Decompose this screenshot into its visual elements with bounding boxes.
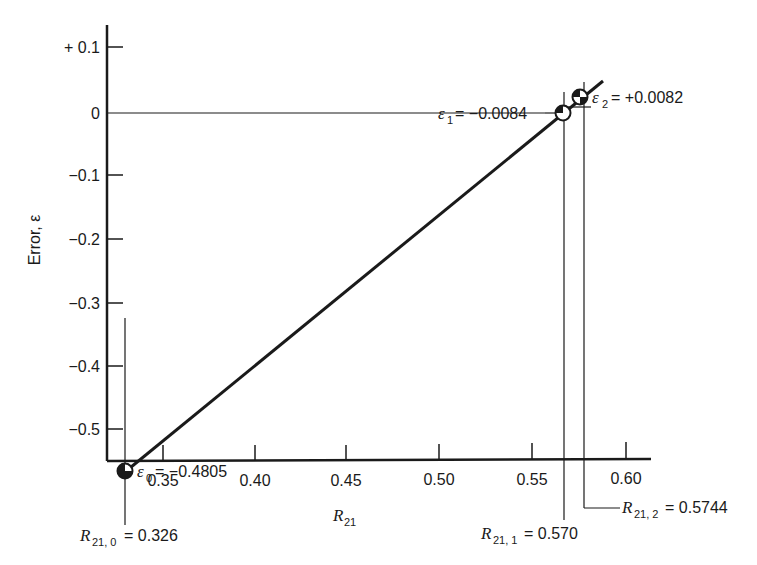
data-point-eps0	[118, 464, 133, 479]
svg-text:21, 1: 21, 1	[493, 534, 517, 546]
svg-text:= 0.5744: = 0.5744	[665, 499, 728, 516]
y-tick-labels: + 0.1 0 −0.1 −0.2 −0.3 −0.4 −0.5	[64, 39, 100, 438]
eps1-annotation: ε 1 = −0.0084	[438, 104, 527, 126]
svg-text:= +0.0082: = +0.0082	[611, 89, 683, 106]
svg-text:2: 2	[602, 98, 608, 110]
r21-0-annotation: R 21, 0 = 0.326	[79, 526, 178, 548]
svg-text:21, 2: 21, 2	[634, 508, 658, 520]
y-tick-label: −0.3	[68, 295, 100, 312]
svg-text:R: R	[480, 524, 492, 543]
x-axis-label: R 21	[332, 506, 356, 528]
eps0-annotation: ε 0 = −0.4805	[137, 462, 227, 484]
svg-text:R: R	[332, 506, 344, 525]
x-axis	[107, 459, 651, 461]
svg-text:ε: ε	[137, 462, 144, 481]
y-tick-label: −0.1	[68, 167, 100, 184]
data-point-eps2	[573, 90, 588, 105]
data-point-eps1	[556, 106, 571, 121]
svg-text:ε: ε	[592, 88, 599, 107]
svg-text:0: 0	[146, 472, 152, 484]
svg-text:= 0.570: = 0.570	[524, 525, 578, 542]
svg-text:= −0.4805: = −0.4805	[155, 463, 227, 480]
eps2-annotation: ε 2 = +0.0082	[592, 88, 683, 110]
y-axis-label: Error, ε	[26, 215, 43, 266]
x-tick-label: 0.40	[239, 472, 270, 489]
x-tick-label: 0.55	[516, 471, 547, 488]
y-tick-label: −0.4	[68, 358, 100, 375]
r21-2-annotation: R 21, 2 = 0.5744	[621, 498, 728, 520]
x-tick-label: 0.60	[610, 470, 641, 487]
svg-text:R: R	[621, 498, 633, 517]
y-tick-label: −0.5	[68, 421, 100, 438]
svg-text:ε: ε	[438, 104, 445, 123]
svg-text:1: 1	[447, 114, 453, 126]
x-tick-label: 0.45	[330, 472, 361, 489]
svg-text:= −0.0084: = −0.0084	[455, 105, 527, 122]
y-tick-label: −0.2	[68, 231, 100, 248]
r21-1-annotation: R 21, 1 = 0.570	[480, 524, 578, 546]
svg-text:= 0.326: = 0.326	[124, 527, 178, 544]
x-tick-label: 0.50	[423, 471, 454, 488]
svg-text:R: R	[79, 526, 91, 545]
y-tick-label: 0	[91, 105, 100, 122]
svg-text:21: 21	[344, 516, 356, 528]
error-line	[125, 81, 603, 472]
y-ticks	[107, 47, 123, 429]
svg-text:21, 0: 21, 0	[92, 536, 116, 548]
y-tick-label: + 0.1	[64, 39, 100, 56]
chart: + 0.1 0 −0.1 −0.2 −0.3 −0.4 −0.5 Error, …	[0, 0, 757, 565]
